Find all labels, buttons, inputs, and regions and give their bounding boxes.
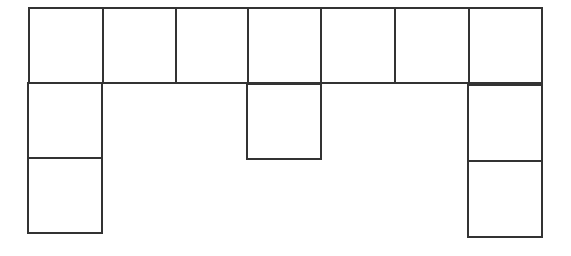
top-row-square-6: [395, 8, 469, 83]
column-7-square-below-1: [468, 85, 542, 161]
column-1-square-below-2: [28, 158, 102, 233]
left-column-below: [28, 83, 102, 233]
top-row: [29, 8, 542, 83]
right-column-below: [468, 85, 542, 237]
column-1-square-below-1: [28, 83, 102, 158]
square-grid-net-diagram: [0, 0, 571, 256]
top-row-square-5: [321, 8, 395, 83]
top-row-square-3: [176, 8, 248, 83]
column-7-square-below-2: [468, 161, 542, 237]
top-row-square-1: [29, 8, 103, 83]
column-4-square-below-1: [247, 84, 321, 159]
middle-column-below: [247, 84, 321, 159]
top-row-square-2: [103, 8, 176, 83]
top-row-square-4: [248, 8, 321, 83]
top-row-square-7: [469, 8, 542, 83]
